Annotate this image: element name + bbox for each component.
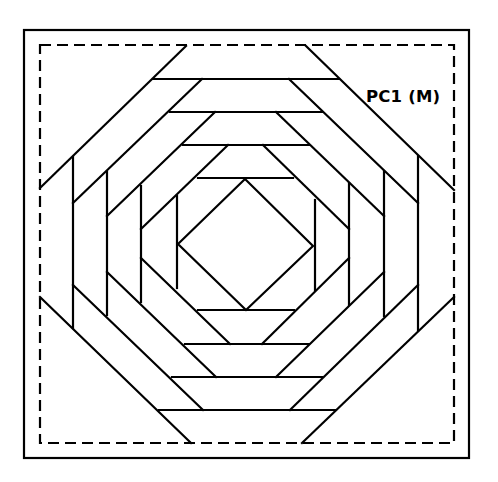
left-strips [73,157,177,328]
right-strips [315,156,418,330]
pattern-piece-label: PC1 (M) [366,87,440,106]
bottom-strips [159,310,336,410]
sw-corner-strips [40,258,230,443]
ne-corner-strips [263,46,454,229]
quilt-block-diagram [0,0,498,482]
top-strips [153,79,339,178]
nw-corner-strips [40,46,228,229]
center-diamond [178,179,313,310]
se-corner-strips [262,258,454,443]
